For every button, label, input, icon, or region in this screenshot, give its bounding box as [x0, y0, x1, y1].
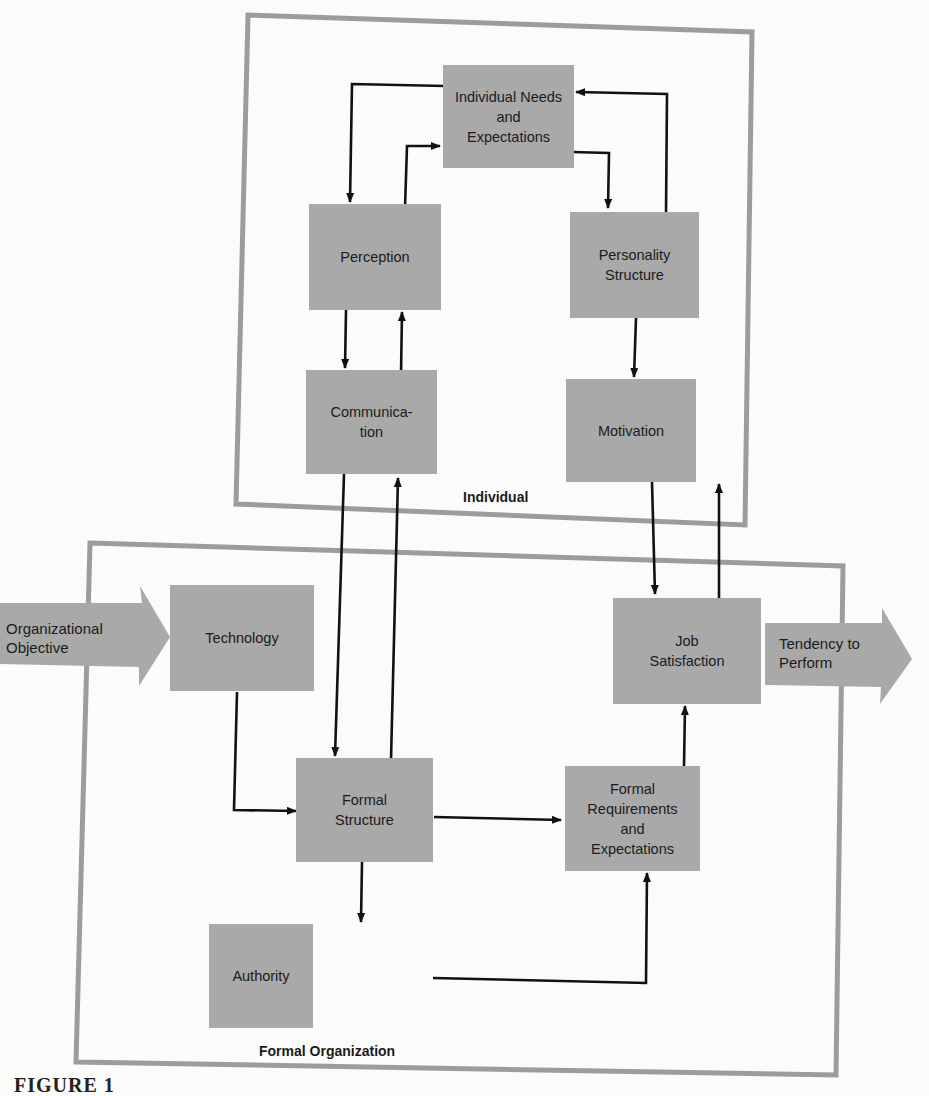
edge-formal-structure-to-authority — [361, 862, 362, 922]
node-technology: Technology — [170, 585, 314, 691]
node-personality-structure: Personality Structure — [570, 212, 699, 318]
node-job-satisfaction: Job Satisfaction — [613, 598, 761, 704]
node-formal-requirements: Formal Requirements and Expectations — [565, 766, 700, 871]
figure-caption: FIGURE 1 — [14, 1074, 115, 1096]
edge-perception-to-communication — [345, 310, 346, 368]
node-individual-needs: Individual Needs and Expectations — [443, 65, 574, 168]
edge-communication-to-perception — [401, 312, 402, 374]
edge-requirements-to-job-satisfaction — [684, 706, 685, 766]
edge-formal-structure-to-communication — [391, 478, 398, 760]
edge-needs-to-personality — [572, 152, 609, 208]
label-organizational-objective: Organizational Objective — [6, 619, 103, 657]
edge-authority-to-requirements — [433, 873, 647, 983]
node-motivation: Motivation — [566, 379, 696, 482]
edge-communication-to-formal-structure — [335, 474, 344, 756]
node-authority: Authority — [209, 924, 313, 1028]
node-perception: Perception — [309, 204, 441, 310]
edge-technology-to-formal-structure — [234, 692, 296, 811]
group-label-individual: Individual — [463, 489, 528, 505]
label-tendency-to-perform: Tendency to Perform — [779, 634, 860, 672]
edge-needs-to-perception — [350, 84, 445, 202]
edge-formal-structure-to-requirements — [434, 817, 561, 820]
edge-motivation-to-job-satisfaction — [652, 482, 655, 594]
edge-perception-to-needs — [405, 146, 440, 208]
node-formal-structure: Formal Structure — [296, 758, 433, 862]
group-label-formal-organization: Formal Organization — [259, 1043, 395, 1059]
edge-personality-to-motivation — [634, 318, 636, 377]
node-communication: Communica- tion — [306, 370, 437, 474]
